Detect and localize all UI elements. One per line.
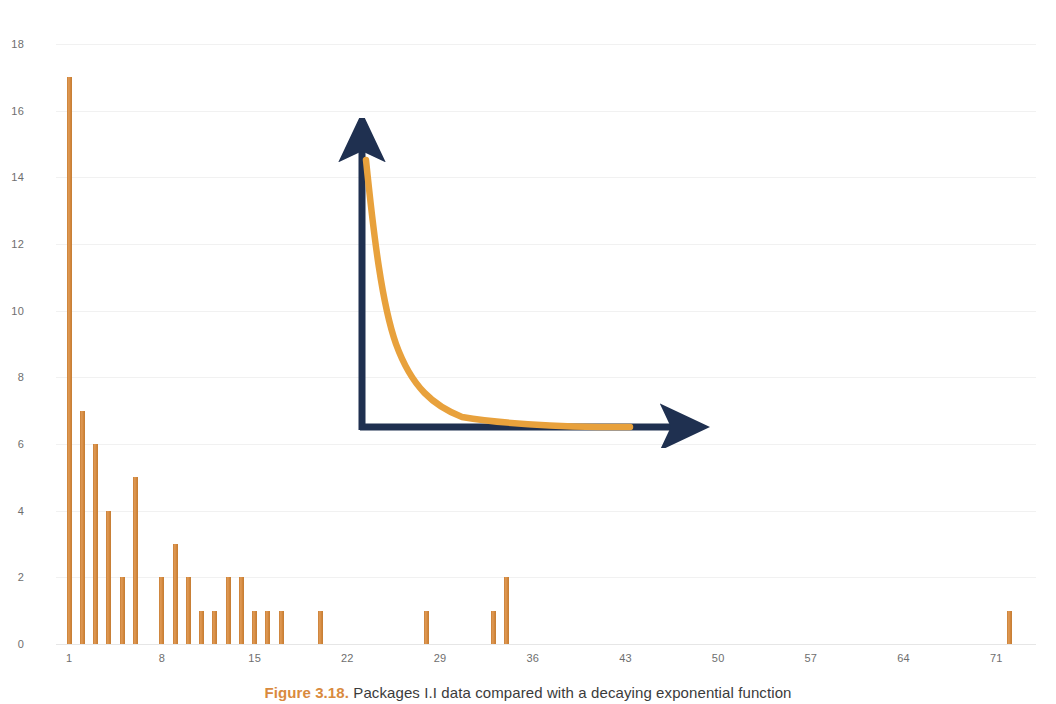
bar [318, 611, 323, 644]
figure-page: 02468101214161818152229364350576471 [0, 0, 1056, 704]
figure-number: Figure 3.18. [264, 684, 349, 701]
y-axis-tick-label-10: 10 [0, 305, 24, 317]
gridline-y-14 [56, 177, 1036, 178]
bar [67, 77, 72, 644]
x-axis-tick-label-36: 36 [526, 652, 539, 664]
bar [1007, 611, 1012, 644]
x-axis-tick-label-57: 57 [805, 652, 818, 664]
bar [80, 411, 85, 644]
y-axis-tick-label-6: 6 [0, 438, 24, 450]
bar [239, 577, 244, 644]
bar [279, 611, 284, 644]
y-axis-tick-label-2: 2 [0, 571, 24, 583]
bar [265, 611, 270, 644]
x-axis-tick-label-1: 1 [66, 652, 72, 664]
bar [106, 511, 111, 644]
figure-caption: Figure 3.18. Packages I.I data compared … [0, 684, 1056, 701]
y-axis-tick-label-0: 0 [0, 638, 24, 650]
bar [424, 611, 429, 644]
bar [491, 611, 496, 644]
gridline-y-12 [56, 244, 1036, 245]
x-axis-tick-label-50: 50 [712, 652, 725, 664]
bar [252, 611, 257, 644]
x-axis-tick-label-15: 15 [248, 652, 261, 664]
gridline-y-4 [56, 511, 1036, 512]
x-axis-tick-label-64: 64 [897, 652, 910, 664]
gridline-y-2 [56, 577, 1036, 578]
bar [504, 577, 509, 644]
gridline-y-0 [56, 644, 1036, 645]
y-axis-tick-label-4: 4 [0, 505, 24, 517]
bar [186, 577, 191, 644]
gridline-y-18 [56, 44, 1036, 45]
bar [93, 444, 98, 644]
y-axis-tick-label-18: 18 [0, 38, 24, 50]
x-axis-tick-label-29: 29 [434, 652, 447, 664]
bar [120, 577, 125, 644]
figure-caption-text: Packages I.I data compared with a decayi… [353, 684, 791, 701]
bar [173, 544, 178, 644]
bar [226, 577, 231, 644]
x-axis-tick-label-22: 22 [341, 652, 354, 664]
bar-chart-plot-area: 02468101214161818152229364350576471 [56, 44, 1036, 644]
gridline-y-6 [56, 444, 1036, 445]
x-axis-tick-label-71: 71 [990, 652, 1003, 664]
gridline-y-16 [56, 111, 1036, 112]
y-axis-tick-label-8: 8 [0, 371, 24, 383]
y-axis-tick-label-14: 14 [0, 171, 24, 183]
y-axis-tick-label-16: 16 [0, 105, 24, 117]
gridline-y-10 [56, 311, 1036, 312]
bar [133, 477, 138, 644]
x-axis-tick-label-8: 8 [159, 652, 165, 664]
gridline-y-8 [56, 377, 1036, 378]
x-axis-tick-label-43: 43 [619, 652, 632, 664]
bar [159, 577, 164, 644]
bar [199, 611, 204, 644]
y-axis-tick-label-12: 12 [0, 238, 24, 250]
bar [212, 611, 217, 644]
